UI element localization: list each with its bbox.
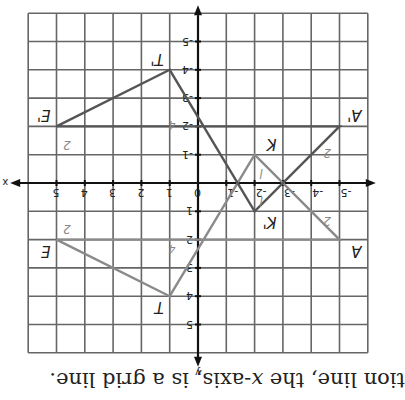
side-length-label: 2 [323, 146, 331, 160]
caption-prefix: tion line, the [263, 368, 405, 392]
x-axis-arrow-left-icon [366, 179, 376, 187]
y-tick-label: -4 [182, 63, 193, 76]
side-length-label: l [259, 166, 263, 180]
x-tick-label: -4 [312, 186, 323, 199]
y-axis-arrow-down-icon [194, 5, 202, 15]
caption-variable: x [251, 368, 263, 392]
x-tick-label: 3 [109, 186, 116, 199]
x-tick-label: 4 [81, 186, 88, 199]
vertex-label: E' [37, 106, 51, 124]
side-length-label: 2 [63, 222, 71, 236]
x-tick-label: 5 [53, 186, 60, 199]
caption-text: tion line, the x-axis, is a grid line. [0, 368, 405, 392]
vertex-label: K' [263, 213, 277, 231]
vertex-label: K [266, 135, 277, 153]
x-axis-arrow-icon [10, 179, 20, 187]
y-tick-label: 5 [186, 318, 193, 331]
y-tick-label: 1 [186, 204, 193, 217]
side-length-label: 4 [168, 118, 176, 132]
y-tick-label: 4 [186, 289, 193, 302]
x-tick-label: -5 [341, 186, 352, 199]
y-tick-label: -5 [182, 35, 193, 48]
vertex-label: A' [347, 106, 362, 124]
caption-suffix: -axis, is a grid line. [49, 368, 251, 392]
side-length-label: l [259, 194, 263, 208]
vertex-label: A [351, 242, 362, 260]
vertex-label: E [41, 242, 51, 260]
x-tick-label: 1 [166, 186, 173, 199]
side-length-label: 2 [323, 214, 331, 228]
x-axis-label: x [2, 177, 8, 188]
vertex-label: T [153, 298, 164, 316]
vertex-label: T' [150, 50, 163, 68]
x-tick-label: 2 [137, 186, 144, 199]
x-tick-label: 0 [194, 186, 201, 199]
side-length-label: 2 [63, 138, 71, 152]
side-length-label: 4 [168, 242, 176, 256]
y-tick-label: -1 [182, 148, 193, 161]
y-axis-arrow-icon [194, 357, 202, 367]
